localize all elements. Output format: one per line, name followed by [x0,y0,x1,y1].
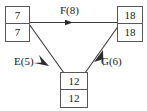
edge-E-arrowhead [34,55,49,66]
edge-label-E: E(5) [14,56,34,67]
edge-E [29,24,64,73]
edge-label-F: F(8) [60,5,79,16]
node-mid-bottom-value: 12 [61,90,87,107]
node-end-bottom-value: 18 [118,24,142,41]
edge-F [30,20,118,26]
edge-label-G: G(6) [101,56,122,67]
node-end[interactable]: 18 18 [117,6,143,42]
edge-F-arrowhead [65,20,73,26]
node-mid[interactable]: 12 12 [60,72,88,108]
node-start-bottom-value: 7 [6,24,29,41]
node-mid-top-value: 12 [61,73,87,90]
network-diagram: 7 7 18 18 12 12 F(8) E(5) G(6) [0,0,147,111]
node-start-top-value: 7 [6,7,29,24]
node-end-top-value: 18 [118,7,142,24]
node-start[interactable]: 7 7 [5,6,30,42]
edge-E-line [29,24,64,73]
